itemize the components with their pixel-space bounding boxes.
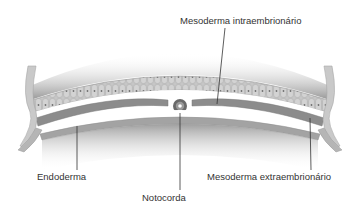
label-endoderma: Endoderma [37, 172, 86, 182]
label-mesoderma-extraembrionario: Mesoderma extraembrionário [207, 172, 331, 182]
embryo-cross-section-diagram: Mesoderma intraembrionário Endoderma Not… [0, 0, 360, 216]
label-mesoderma-intraembrionario: Mesoderma intraembrionário [180, 16, 301, 26]
label-notocorda: Notocorda [142, 193, 186, 203]
diagram-canvas [0, 0, 360, 216]
